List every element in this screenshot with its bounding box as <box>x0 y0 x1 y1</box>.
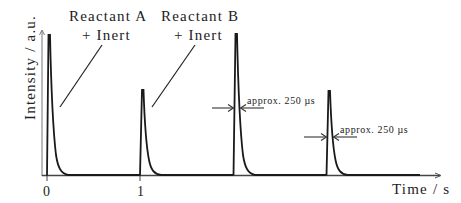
reactant-a-sublabel: + Inert <box>82 27 131 43</box>
y-axis-label: Intensity / a.u. <box>22 15 38 120</box>
peak-2 <box>140 90 233 176</box>
width-note-1: approx. 250 µs <box>247 95 315 106</box>
annotation-reactant-b: Reactant B + Inert <box>152 8 239 107</box>
reactant-a-label: Reactant A <box>69 8 147 24</box>
x-axis-label: Time / s <box>392 181 450 197</box>
width-note-2: approx. 250 µs <box>340 124 408 135</box>
x-tick-1: 1 <box>137 184 144 199</box>
pulse-series <box>47 34 420 176</box>
x-tick-0: 0 <box>43 184 50 199</box>
reactant-b-sublabel: + Inert <box>174 27 223 43</box>
reactant-b-label: Reactant B <box>161 8 239 24</box>
pulse-response-chart: 0 1 Intensity / a.u. Time / s Reactant A… <box>0 0 461 203</box>
annotation-reactant-a: Reactant A + Inert <box>60 8 147 107</box>
y-axis <box>40 30 45 176</box>
